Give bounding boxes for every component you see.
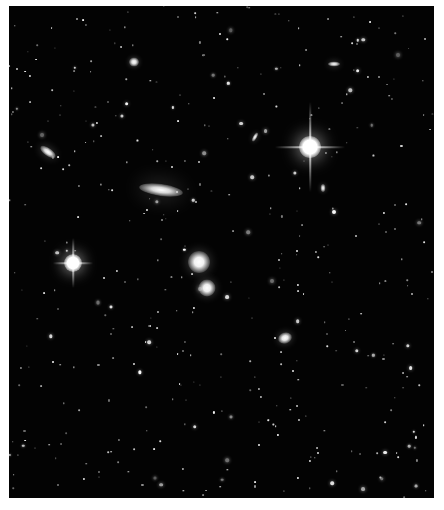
star-point [351,450,353,452]
star-point [182,350,184,352]
star-point [11,113,12,114]
star-point [359,453,361,455]
star-point [384,421,386,423]
star-point [93,141,94,142]
star-point [95,106,96,107]
star-point [60,443,62,445]
star-point [184,340,186,342]
star-point [83,478,85,480]
star-point [171,166,173,168]
star-point [325,152,327,154]
star-point [54,290,56,292]
star-point [98,471,100,473]
star-point [183,490,184,491]
star-point [208,126,209,127]
star-point [137,140,138,141]
star-point [249,389,251,391]
star-point [357,127,358,128]
star-point [416,459,418,461]
star-point [150,80,151,81]
star-point [63,168,65,170]
star-point [278,259,280,261]
star-point [212,74,215,77]
star-point [40,167,42,169]
star-point [362,38,365,41]
star-point [29,75,31,77]
star-point [331,156,332,157]
star-point [179,95,180,96]
star-point [396,452,398,454]
star-point [177,16,179,18]
star-point [150,317,151,318]
star-point [248,7,250,9]
star-point [182,468,184,470]
star-point [86,120,87,121]
star-point [246,230,250,234]
star-point [185,245,186,246]
star-point [372,354,374,356]
star-point [336,152,337,153]
star-point [133,448,135,450]
star-point [92,123,95,126]
star-point [365,387,367,389]
star-point [195,201,197,203]
star-point [128,471,129,472]
star-point [137,279,138,280]
star-point [57,156,59,158]
star-point [14,25,15,26]
star-point [37,318,39,320]
star-point [263,93,265,95]
star-point [378,76,380,78]
star-point [275,425,277,427]
star-point [383,451,387,455]
star-point [309,460,311,462]
star-point [336,470,338,472]
star-point [280,67,281,68]
star-point [349,318,350,319]
star-point [296,360,297,361]
star-point [212,411,214,413]
star-point [390,98,392,100]
star-point [160,441,162,443]
star-point [96,122,98,124]
star-point [406,344,409,347]
star-point [431,271,433,273]
star-point [14,272,16,274]
star-point [425,490,426,491]
star-point [219,33,221,35]
star-point [427,299,428,300]
star-point [107,451,109,453]
star-point [110,333,112,335]
star-point [205,490,207,492]
star-point [275,67,277,69]
star-point [157,311,159,313]
star-point [385,280,386,281]
star-point [159,483,163,487]
star-point [335,350,337,352]
star-point [277,434,279,436]
star-point [353,69,354,70]
star-point [220,353,222,355]
star-point [297,379,299,381]
star-point [177,354,179,356]
star-point [280,267,281,268]
star-point [225,295,229,299]
star-point [161,219,163,221]
star-point [148,340,152,344]
star-point [199,41,201,43]
star-point [227,39,229,41]
star-point [112,357,114,359]
star-point [97,364,99,366]
bright-star-left [64,254,82,272]
star-point [318,257,320,259]
star-point [144,213,146,215]
star-point [16,68,18,70]
star-point [316,447,318,449]
star-point [324,430,325,431]
star-point [297,477,299,479]
star-point [288,20,289,21]
star-point [31,146,32,147]
star-point [407,279,409,281]
star-point [73,90,74,91]
star-point [68,164,70,166]
